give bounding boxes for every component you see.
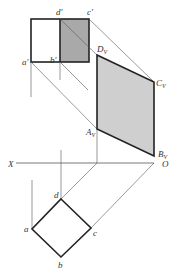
label-d: d <box>54 190 59 200</box>
top-view-square <box>32 199 91 257</box>
label-d-prime: d′ <box>56 7 64 17</box>
label-c-prime: c′ <box>87 7 94 17</box>
label-O: O <box>162 159 169 169</box>
label-b-prime: b′ <box>50 55 58 65</box>
label-a-prime: a′ <box>22 57 30 67</box>
label-a: a <box>24 224 29 234</box>
label-Dv: DV <box>96 44 109 55</box>
front-view <box>31 19 89 62</box>
label-Cv: CV <box>156 78 167 89</box>
label-c: c <box>93 228 97 238</box>
projection-diagram: d′ c′ a′ b′ DV CV AV BV X O d a c b <box>0 0 177 273</box>
auxiliary-view <box>97 55 154 156</box>
front-view-shaded-face <box>60 19 89 62</box>
label-X: X <box>7 159 14 169</box>
label-Av: AV <box>85 127 97 138</box>
label-b: b <box>58 260 63 270</box>
auxiliary-view-face <box>97 55 154 156</box>
